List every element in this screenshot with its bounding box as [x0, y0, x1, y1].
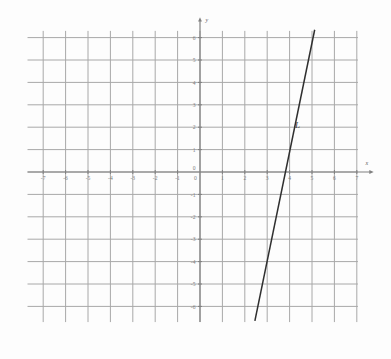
x-tick-label: 1: [221, 175, 224, 181]
y-tick-label: 5: [193, 57, 196, 63]
x-tick-label: 2: [243, 175, 246, 181]
x-tick-label: 0: [194, 175, 197, 181]
y-tick-label: -1: [191, 192, 196, 198]
y-tick-label: 1: [193, 147, 196, 153]
x-tick-label: -3: [130, 175, 135, 181]
x-tick-label: 6: [333, 175, 336, 181]
x-tick-label: -4: [108, 175, 113, 181]
y-tick-label: -3: [191, 236, 196, 242]
x-tick-label: 3: [266, 175, 269, 181]
y-tick-label: 6: [193, 35, 196, 41]
x-tick-label: -6: [63, 175, 68, 181]
y-tick-label: -4: [191, 259, 196, 265]
x-tick-label: -2: [153, 175, 158, 181]
x-axis-label: x: [365, 160, 369, 166]
x-tick-label: 4: [288, 175, 291, 181]
x-tick-label: -5: [86, 175, 91, 181]
line-label-L: L: [294, 120, 300, 130]
y-axis-label: y: [204, 17, 208, 23]
graph-canvas: -7-6-5-4-3-2-101234567654321-1-2-3-4-5-6…: [0, 0, 391, 359]
coordinate-plane-figure: -7-6-5-4-3-2-101234567654321-1-2-3-4-5-6…: [0, 0, 391, 359]
x-tick-label: -7: [41, 175, 46, 181]
x-tick-label: 7: [355, 175, 358, 181]
y-tick-label: 4: [193, 80, 196, 86]
y-tick-label: 2: [193, 124, 196, 130]
x-tick-label: 5: [311, 175, 314, 181]
x-tick-label: -1: [175, 175, 180, 181]
y-tick-label: -6: [191, 304, 196, 310]
y-tick-label: -5: [191, 281, 196, 287]
y-tick-label: 3: [193, 102, 196, 108]
y-tick-label-zero: 0: [193, 165, 196, 171]
y-tick-label: -2: [191, 214, 196, 220]
